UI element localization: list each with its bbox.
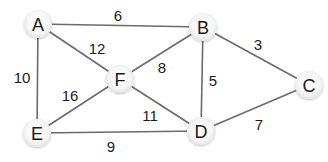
edge-b-d bbox=[201, 27, 203, 131]
edge-weight-d-c: 7 bbox=[255, 116, 263, 133]
node-e: E bbox=[23, 119, 51, 147]
edge-f-e bbox=[37, 79, 120, 133]
node-label: E bbox=[31, 124, 43, 144]
edge-a-e bbox=[37, 24, 38, 133]
node-c: C bbox=[295, 71, 323, 99]
edges-layer bbox=[37, 24, 309, 133]
edge-weight-a-b: 6 bbox=[114, 7, 122, 24]
edge-weight-f-d: 11 bbox=[142, 107, 158, 124]
node-b: B bbox=[189, 13, 217, 41]
edge-weight-f-e: 16 bbox=[62, 87, 79, 104]
node-a: A bbox=[24, 10, 52, 38]
edge-weight-e-d: 9 bbox=[107, 138, 115, 155]
edge-weight-b-c: 3 bbox=[254, 36, 262, 53]
node-label: B bbox=[197, 18, 209, 38]
edge-weight-a-e: 10 bbox=[14, 69, 31, 86]
edge-a-b bbox=[38, 24, 203, 27]
edge-a-f bbox=[38, 24, 120, 79]
edge-weight-b-d: 5 bbox=[209, 72, 217, 89]
edge-weight-b-f: 8 bbox=[158, 59, 166, 76]
node-d: D bbox=[187, 117, 215, 145]
edge-e-d bbox=[37, 131, 201, 133]
node-label: D bbox=[195, 122, 208, 142]
edge-f-d bbox=[120, 79, 201, 131]
nodes-layer: ABCDEF bbox=[23, 10, 323, 147]
node-f: F bbox=[106, 65, 134, 93]
edge-weight-a-f: 12 bbox=[89, 40, 106, 57]
node-label: A bbox=[32, 15, 44, 35]
weighted-graph-diagram: 61210835161197 ABCDEF bbox=[0, 0, 328, 162]
node-label: F bbox=[115, 70, 126, 90]
node-label: C bbox=[303, 76, 316, 96]
